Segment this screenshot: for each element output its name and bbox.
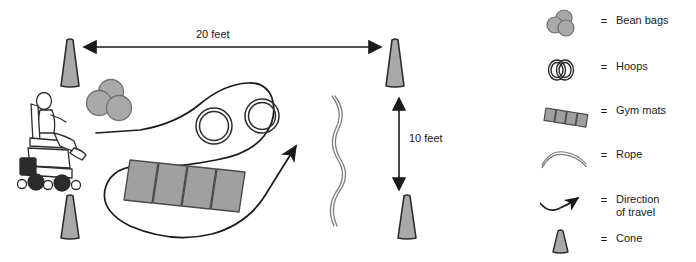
legend-label-gym-mats: Gym mats [616,104,696,117]
legend-equals: = [596,15,612,27]
bean-bags-icon [540,4,596,44]
direction-of-travel-icon [540,183,596,223]
dimension-label-horizontal: 20 feet [196,28,230,40]
bean-bag [107,96,132,121]
legend-equals: = [596,233,612,245]
rope [330,96,345,226]
legend: = Bean bags = Hoops [540,0,696,262]
cone-icon [540,222,596,262]
bean-bags [87,80,132,121]
cone-top-right [386,39,404,87]
gym-mat-panel [182,166,216,209]
gym-mats [124,160,245,212]
legend-label-direction-of-travel: Direction of travel [616,193,696,219]
dimension-label-vertical: 10 feet [409,132,443,144]
legend-item-cone: = Cone [540,222,696,262]
legend-equals: = [596,105,612,117]
legend-equals: = [596,61,612,73]
hoop-left [196,108,232,144]
legend-item-bean-bags: = Bean bags [540,4,696,44]
cone-bottom-left [61,195,79,239]
legend-item-hoops: = Hoops [540,50,696,90]
gym-mats-icon [540,94,596,134]
legend-item-rope: = Rope [540,138,696,178]
legend-equals: = [596,149,612,161]
gym-mat-panel [124,160,158,203]
legend-label-cone: Cone [616,232,696,245]
wheelchair-user-icon [18,93,87,192]
legend-label-rope: Rope [616,148,696,161]
course-diagram [0,0,540,262]
gym-mat-panel [153,163,187,206]
cone-bottom-right [398,195,416,239]
legend-label-hoops: Hoops [616,60,696,73]
legend-item-direction-of-travel: = Direction of travel [540,183,696,213]
rope-icon [540,138,596,178]
diagram-canvas: 20 feet 10 feet = Bean bags [0,0,696,262]
gym-mat-panel [211,169,245,212]
hoops-icon [540,50,596,90]
cone-top-left [61,39,79,87]
legend-equals: = [596,194,612,206]
legend-label-bean-bags: Bean bags [616,14,696,27]
legend-item-gym-mats: = Gym mats [540,94,696,134]
